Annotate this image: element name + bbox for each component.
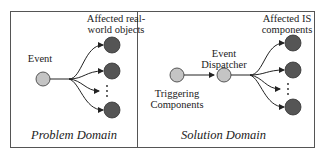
- problem-domain-graph: [36, 37, 120, 118]
- event-dispatcher-label-line2: Dispatcher: [198, 59, 250, 70]
- event-dispatcher-label: Event Dispatcher: [198, 48, 250, 70]
- affected-components-label-line2: components: [252, 24, 322, 35]
- affected-object-node: [104, 37, 120, 53]
- problem-domain-title: Problem Domain: [31, 128, 117, 143]
- affected-component-node: [285, 62, 301, 78]
- triggering-components-label-line2: Components: [148, 99, 206, 110]
- event-node: [36, 72, 50, 86]
- affected-object-node: [104, 102, 120, 118]
- triggering-components-label-line1: Triggering: [148, 88, 206, 99]
- triggering-components-label: Triggering Components: [148, 88, 206, 110]
- affected-objects-label-line1: Affected real-: [70, 13, 162, 24]
- event-dispatcher-label-line1: Event: [198, 48, 250, 59]
- affected-components-label: Affected IS components: [252, 13, 322, 35]
- affected-components-label-line1: Affected IS: [252, 13, 322, 24]
- solution-domain-title: Solution Domain: [181, 128, 266, 143]
- affected-component-node: [285, 99, 301, 115]
- affected-object-node: [104, 63, 120, 79]
- triggering-components-node: [170, 68, 184, 82]
- affected-component-node: [285, 35, 301, 51]
- affected-objects-label: Affected real- world objects: [70, 13, 162, 35]
- event-dispatcher-node: [217, 68, 231, 82]
- event-label: Event: [20, 53, 60, 64]
- affected-objects-label-line2: world objects: [70, 24, 162, 35]
